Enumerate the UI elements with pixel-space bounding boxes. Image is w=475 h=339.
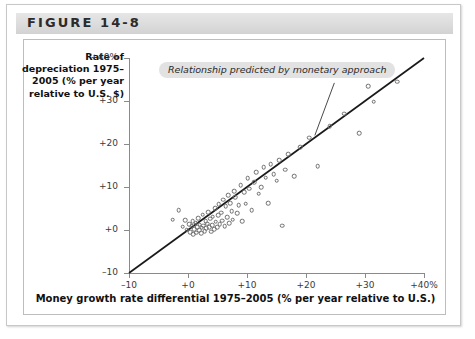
figure-title: FIGURE 14-8 <box>27 15 141 30</box>
data-point <box>395 79 400 84</box>
data-point <box>233 195 238 200</box>
data-point <box>277 158 282 163</box>
data-point <box>261 165 266 170</box>
data-point <box>316 164 321 169</box>
data-point <box>236 203 241 208</box>
data-point <box>235 211 240 216</box>
data-point <box>176 208 181 213</box>
data-point <box>264 175 269 180</box>
data-point <box>206 210 211 215</box>
y-tick-label: –10 <box>102 267 118 277</box>
data-point <box>220 218 225 223</box>
y-tick-label: +20 <box>99 138 118 148</box>
x-tick <box>365 273 366 278</box>
data-point <box>271 172 276 177</box>
data-point <box>259 185 264 190</box>
x-tick-label: +40% <box>410 280 438 290</box>
data-point <box>292 174 297 179</box>
x-tick-label: –10 <box>121 280 137 290</box>
data-point <box>231 217 236 222</box>
data-point <box>238 183 243 188</box>
data-point <box>245 176 250 181</box>
data-point <box>244 201 249 206</box>
data-point <box>357 131 362 136</box>
data-point <box>268 162 273 167</box>
data-point <box>252 180 257 185</box>
x-tick-label: +0 <box>181 280 194 290</box>
y-tick-label: +0 <box>105 224 118 234</box>
annotation-label: Relationship predicted by monetary appro… <box>159 62 395 78</box>
data-point <box>286 152 291 157</box>
data-point <box>298 145 303 150</box>
data-point <box>216 202 221 207</box>
data-point <box>226 193 231 198</box>
plot-area: –10+0+10+20+30+40% –10+0+10+20+30+40% Re… <box>129 58 424 273</box>
x-tick-label: +10 <box>238 280 257 290</box>
x-tick <box>247 273 248 278</box>
x-tick <box>306 273 307 278</box>
annotation-leader-line <box>129 58 424 273</box>
data-point <box>249 208 254 213</box>
x-axis-line <box>129 273 424 274</box>
data-point <box>283 168 288 173</box>
data-point <box>221 198 226 203</box>
data-point <box>342 112 347 117</box>
data-point <box>366 84 371 89</box>
data-point <box>196 216 201 221</box>
x-tick-label: +30 <box>356 280 375 290</box>
data-point <box>247 186 252 191</box>
data-point <box>222 224 227 229</box>
data-point <box>240 219 245 224</box>
data-point <box>257 192 262 197</box>
data-point <box>200 212 205 217</box>
data-point <box>170 217 175 222</box>
plot-frame: Rate of depreciation 1975–2005 (% per ye… <box>23 39 446 315</box>
x-tick <box>188 273 189 278</box>
y-tick-label: +40% <box>90 52 118 62</box>
data-point <box>232 189 237 194</box>
data-point <box>210 214 215 219</box>
data-point <box>372 100 377 105</box>
figure-card: FIGURE 14-8 Rate of depreciation 1975–20… <box>6 4 461 326</box>
data-point <box>223 204 228 209</box>
data-point <box>280 223 285 228</box>
data-point <box>327 124 332 129</box>
data-point <box>225 215 230 220</box>
y-tick-label: +10 <box>99 181 118 191</box>
y-tick-label: +30 <box>99 95 118 105</box>
data-point <box>242 190 247 195</box>
x-tick <box>424 273 425 278</box>
data-point <box>219 211 224 216</box>
data-point <box>229 209 234 214</box>
data-point <box>274 178 279 183</box>
data-point <box>254 170 259 175</box>
x-tick <box>129 273 130 278</box>
data-point <box>228 201 233 206</box>
x-axis-title: Money growth rate differential 1975–2005… <box>24 293 447 304</box>
x-tick-label: +20 <box>297 280 316 290</box>
data-point <box>307 135 312 140</box>
data-point <box>266 201 271 206</box>
